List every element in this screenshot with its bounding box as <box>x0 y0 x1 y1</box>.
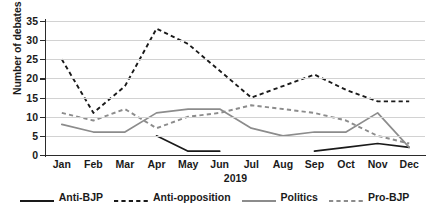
y-axis-tick-label: 15 <box>20 93 38 103</box>
y-axis-tick-mark <box>40 155 45 156</box>
series-line-anti-opposition <box>62 29 409 113</box>
y-axis-tick-label: 5 <box>20 131 38 141</box>
legend-label: Anti-opposition <box>153 191 231 203</box>
y-axis-tick-label: 0 <box>20 150 38 160</box>
y-axis-tick-mark <box>40 98 45 99</box>
series-line-politics <box>62 109 409 147</box>
legend-swatch-solid-line-icon <box>20 192 54 202</box>
y-axis-tick-labels: 05101520253035 <box>14 0 38 216</box>
chart-legend: Anti-BJPAnti-oppositionPoliticsPro-BJP <box>0 191 429 203</box>
gridline <box>46 98 425 99</box>
legend-item-pro-bjp[interactable]: Pro-BJP <box>329 191 409 203</box>
line-chart: Number of debates per month 051015202530… <box>0 0 429 216</box>
legend-item-anti-bjp[interactable]: Anti-BJP <box>20 191 103 203</box>
x-axis-line <box>45 155 426 156</box>
legend-swatch-dashed-line-icon <box>329 192 363 202</box>
y-axis-tick-mark <box>40 78 45 79</box>
y-axis-tick-label: 20 <box>20 73 38 83</box>
plot-area <box>46 21 425 155</box>
gridline <box>46 136 425 137</box>
series-line-anti-bjp <box>157 136 220 151</box>
x-axis-tick-label: Dec <box>389 158 429 170</box>
y-axis-tick-mark <box>40 136 45 137</box>
y-axis-tick-label: 35 <box>20 16 38 26</box>
x-axis-title: 2019 <box>46 172 425 184</box>
legend-label: Anti-BJP <box>59 191 103 203</box>
legend-swatch-dashed-line-icon <box>114 192 148 202</box>
y-axis-tick-mark <box>40 59 45 60</box>
series-line-anti-bjp <box>314 144 409 152</box>
gridline <box>46 78 425 79</box>
legend-item-anti-opposition[interactable]: Anti-opposition <box>114 191 231 203</box>
y-axis-tick-mark <box>40 117 45 118</box>
legend-label: Politics <box>281 191 318 203</box>
gridline <box>46 21 425 22</box>
legend-swatch-solid-line-icon <box>242 192 276 202</box>
gridline <box>46 59 425 60</box>
y-axis-tick-mark <box>40 40 45 41</box>
gridline <box>46 40 425 41</box>
y-axis-tick-mark <box>40 21 45 22</box>
gridline <box>46 117 425 118</box>
legend-label: Pro-BJP <box>368 191 409 203</box>
y-axis-tick-label: 10 <box>20 112 38 122</box>
legend-item-politics[interactable]: Politics <box>242 191 318 203</box>
y-axis-tick-label: 25 <box>20 54 38 64</box>
y-axis-tick-label: 30 <box>20 35 38 45</box>
